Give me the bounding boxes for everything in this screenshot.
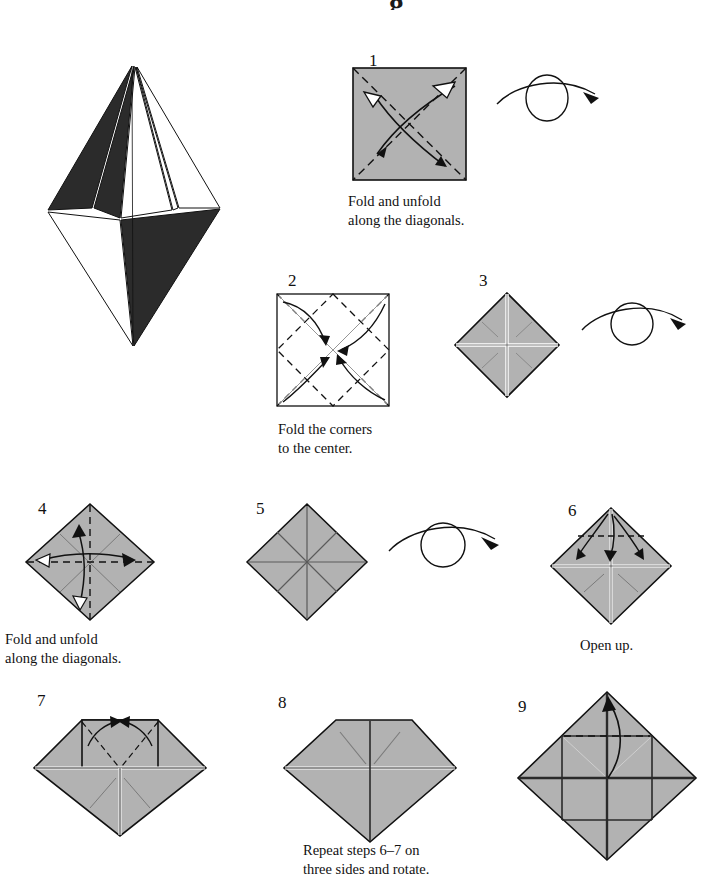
diagram-page: g 1 bbox=[0, 0, 710, 895]
step-figure-9 bbox=[512, 686, 702, 866]
step-figure-4 bbox=[20, 500, 160, 624]
step-caption-2: Fold the corners to the center. bbox=[278, 420, 372, 457]
finished-model bbox=[20, 50, 260, 370]
step-figure-5 bbox=[243, 500, 371, 624]
step-figure-3 bbox=[452, 290, 562, 400]
step-figure-7 bbox=[30, 700, 210, 840]
turn-over-icon-1 bbox=[495, 66, 615, 126]
step-number-2: 2 bbox=[288, 272, 297, 289]
page-title-fragment: g bbox=[389, 0, 429, 10]
step-figure-1 bbox=[351, 66, 471, 184]
turn-over-icon-3 bbox=[580, 290, 700, 350]
turn-over-icon-5 bbox=[385, 505, 515, 575]
step-caption-1: Fold and unfold along the diagonals. bbox=[348, 192, 464, 229]
step-number-3: 3 bbox=[479, 272, 488, 289]
step-caption-8: Repeat steps 6–7 on three sides and rota… bbox=[303, 841, 429, 878]
step-caption-6: Open up. bbox=[580, 636, 633, 655]
step-figure-8 bbox=[280, 700, 460, 846]
step-caption-4: Fold and unfold along the diagonals. bbox=[5, 630, 121, 667]
step-figure-2 bbox=[275, 292, 393, 410]
step-figure-6 bbox=[546, 504, 676, 630]
